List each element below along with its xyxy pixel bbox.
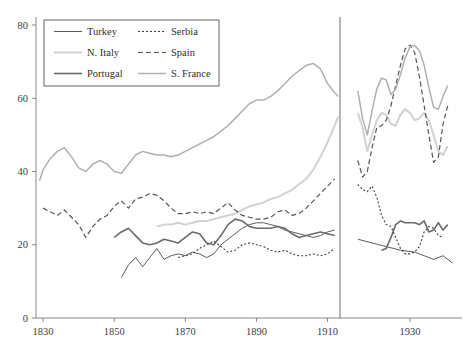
legend-label-spain: Spain bbox=[171, 47, 196, 58]
series-line-portugal bbox=[382, 221, 448, 250]
x-tick-label: 1850 bbox=[104, 326, 125, 337]
legend-label-n-italy: N. Italy bbox=[87, 47, 120, 58]
y-tick-label: 60 bbox=[18, 93, 29, 104]
series-line-turkey bbox=[121, 223, 334, 278]
x-tick-label: 1930 bbox=[399, 326, 420, 337]
series-line-turkey bbox=[358, 239, 453, 263]
y-tick-label: 80 bbox=[18, 20, 29, 31]
chart-figure: 020406080 183018501870189019101930 Turke… bbox=[0, 0, 474, 362]
x-tick-label: 1830 bbox=[33, 326, 54, 337]
x-tick-label: 1870 bbox=[175, 326, 196, 337]
series-line-serbia bbox=[358, 184, 443, 254]
y-tick-label: 40 bbox=[18, 166, 29, 177]
legend-label-portugal: Portugal bbox=[87, 68, 123, 79]
legend-label-s-france: S. France bbox=[171, 68, 211, 79]
legend-label-turkey: Turkey bbox=[87, 26, 118, 37]
x-tick-label: 1910 bbox=[317, 326, 338, 337]
line-chart: 020406080 183018501870189019101930 Turke… bbox=[0, 0, 474, 362]
series-line-spain bbox=[43, 179, 335, 238]
series-line-n-italy bbox=[157, 117, 338, 227]
legend-label-serbia: Serbia bbox=[171, 26, 198, 37]
y-axis: 020406080 bbox=[18, 17, 37, 324]
x-axis: 183018501870189019101930 bbox=[33, 318, 462, 337]
series-line-portugal bbox=[114, 219, 334, 245]
y-tick-label: 20 bbox=[18, 239, 29, 250]
y-tick-label: 0 bbox=[23, 313, 28, 324]
x-tick-label: 1890 bbox=[246, 326, 267, 337]
chart-legend: TurkeySerbiaN. ItalySpainPortugalS. Fran… bbox=[44, 20, 219, 86]
